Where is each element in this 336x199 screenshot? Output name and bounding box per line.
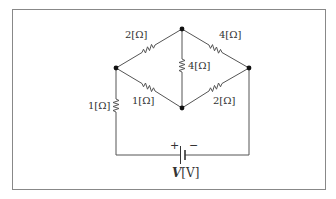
- circuit-svg: [0, 0, 336, 199]
- battery-minus-sign: −: [189, 140, 198, 151]
- label-2ohm-left-top: 2[Ω]: [125, 30, 147, 40]
- node-right: [247, 66, 252, 71]
- resistor-4ohm-top-bottom: [179, 29, 185, 108]
- label-1ohm-left-bottom: 1[Ω]: [132, 96, 154, 106]
- label-1ohm-series-left: 1[Ω]: [88, 101, 110, 111]
- battery-symbol: [181, 146, 186, 164]
- node-top: [180, 27, 185, 32]
- battery-voltage-label: V[V]: [172, 167, 199, 179]
- label-2ohm-right-bottom: 2[Ω]: [213, 96, 235, 106]
- resistor-1ohm-series-left: [113, 68, 119, 155]
- node-bottom: [180, 106, 185, 111]
- label-4ohm-top-right: 4[Ω]: [219, 30, 241, 40]
- node-left: [114, 66, 119, 71]
- label-4ohm-top-bottom: 4[Ω]: [188, 61, 210, 71]
- battery-plus-sign: +: [170, 140, 179, 151]
- voltage-variable: V: [172, 166, 181, 180]
- voltage-unit: [V]: [181, 166, 199, 180]
